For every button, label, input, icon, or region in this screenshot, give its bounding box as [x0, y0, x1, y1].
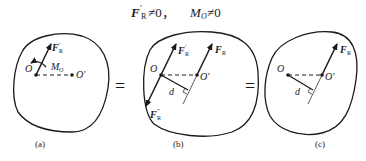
title-neq-2: ≠0 — [207, 5, 221, 20]
point-o-dot — [286, 73, 290, 77]
label-force: F — [339, 44, 347, 55]
caption-c: (c) — [315, 139, 325, 149]
label-distance-d: d — [295, 86, 301, 97]
title-condition: F ′ R ≠0， M O ≠0 — [130, 3, 221, 21]
label-o-prime: O′ — [325, 71, 335, 82]
label-o: O — [25, 63, 32, 74]
label-force-sub: R — [59, 48, 63, 54]
label-force-2: F — [214, 44, 222, 55]
title-force-symbol: F — [130, 5, 140, 20]
point-o-prime-dot — [70, 73, 74, 77]
line-of-action-extension — [183, 75, 197, 104]
panel-c: O O′ F R d (c) — [265, 32, 357, 149]
force-system-diagram: F ′ R ≠0， M O ≠0 O O′ F ′ R M O (a) = — [0, 0, 366, 161]
label-force-2-sub: R — [222, 50, 226, 56]
label-distance-d: d — [169, 86, 175, 97]
force-vector-arrow — [36, 44, 51, 75]
label-force-1-prime: ′ — [185, 43, 187, 51]
label-force-1: F — [177, 45, 185, 56]
equals-sign-2: = — [245, 76, 255, 96]
line-of-action-extension — [308, 75, 322, 104]
force-vector-arrow-3 — [146, 75, 161, 106]
label-force-sub: R — [347, 50, 351, 56]
caption-b: (b) — [173, 139, 184, 149]
label-moment-sub: O — [59, 67, 64, 73]
label-o: O — [150, 63, 157, 74]
moment-arc-arrow — [31, 62, 46, 67]
force-vector-arrow-1 — [161, 44, 176, 75]
label-o: O — [277, 63, 284, 74]
label-o-prime: O′ — [200, 71, 210, 82]
title-subscript-r: R — [141, 12, 147, 21]
point-o-prime-dot — [195, 73, 199, 77]
point-o-dot — [159, 73, 163, 77]
label-force-3-prime: ″ — [157, 107, 160, 115]
label-force-1-sub: R — [185, 51, 189, 57]
distance-d-line — [161, 75, 188, 90]
panel-b: O O′ F ′ R F R F ″ R d (b) — [144, 32, 259, 149]
label-force: F — [51, 42, 59, 53]
panel-a: O O′ F ′ R M O (a) — [14, 34, 109, 149]
point-o-prime-dot — [320, 73, 324, 77]
title-neq-1: ≠0， — [148, 5, 175, 20]
label-o-prime: O′ — [76, 69, 86, 80]
equals-sign-1: = — [115, 76, 125, 96]
caption-a: (a) — [35, 139, 45, 149]
label-force-3: F — [149, 109, 157, 120]
label-force-3-sub: R — [157, 115, 161, 121]
distance-d-line — [288, 75, 313, 90]
